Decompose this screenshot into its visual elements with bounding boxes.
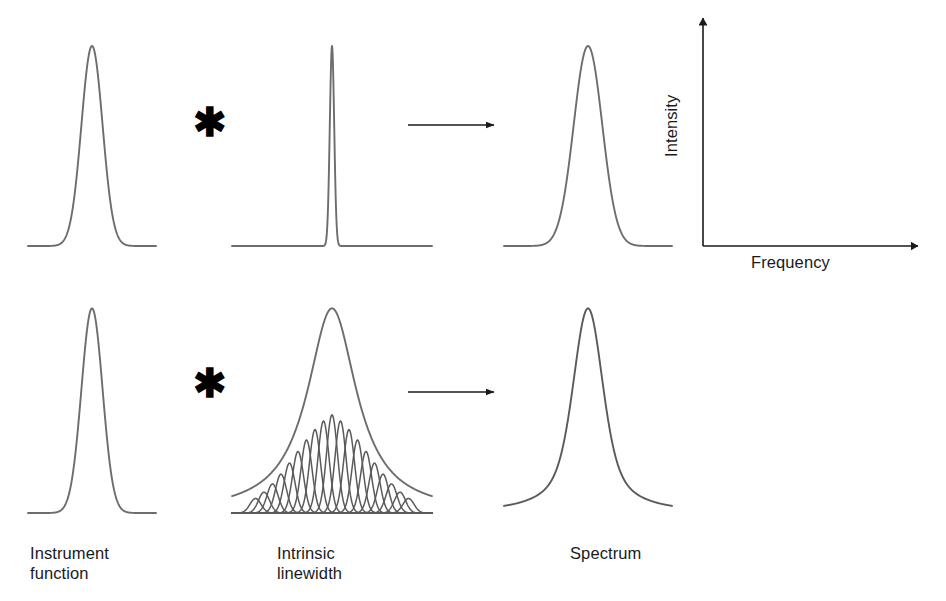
connector-group xyxy=(408,125,494,392)
intrinsic-linewidth-bottom-component xyxy=(232,430,432,513)
intrinsic-linewidth-bottom-component xyxy=(232,421,432,513)
intrinsic-linewidth-bottom-component xyxy=(232,415,432,513)
intrinsic-linewidth-top xyxy=(232,46,432,246)
intrinsic-linewidth-bottom-component xyxy=(232,440,432,513)
x-axis-label-frequency: Frequency xyxy=(751,253,830,272)
intrinsic-linewidth-bottom-component xyxy=(232,492,432,513)
intrinsic-linewidth-bottom-envelope xyxy=(232,308,432,496)
intrinsic-linewidth-bottom-component xyxy=(232,492,432,513)
intrinsic-linewidth-bottom-component xyxy=(232,430,432,513)
y-axis-label-intensity: Intensity xyxy=(662,95,681,157)
spectrum-top xyxy=(504,46,672,246)
curve-group xyxy=(28,46,672,513)
figure-canvas: ✱ ✱ Instrument function Intrinsic linewi… xyxy=(0,0,946,601)
spectrum-bottom xyxy=(504,308,672,506)
panel-label-spectrum: Spectrum xyxy=(570,543,641,563)
panel-label-instrument-function: Instrument function xyxy=(30,543,109,583)
intensity-frequency-axes xyxy=(703,18,918,246)
intrinsic-linewidth-bottom-component xyxy=(232,421,432,513)
convolution-operator-bottom: ✱ xyxy=(193,363,227,403)
instrument-function-bottom xyxy=(28,308,156,513)
convolution-diagram-svg xyxy=(0,0,946,601)
panel-label-intrinsic-linewidth: Intrinsic linewidth xyxy=(277,543,342,583)
instrument-function-top xyxy=(28,46,156,246)
convolution-operator-top: ✱ xyxy=(193,102,227,142)
intrinsic-linewidth-bottom-component xyxy=(232,440,432,513)
